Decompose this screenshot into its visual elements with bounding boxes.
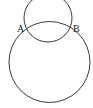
point-label-b: B: [73, 23, 80, 34]
two-intersecting-circles-diagram: A B: [0, 0, 93, 108]
small-circle: [24, 0, 72, 42]
point-label-a: A: [17, 23, 25, 34]
